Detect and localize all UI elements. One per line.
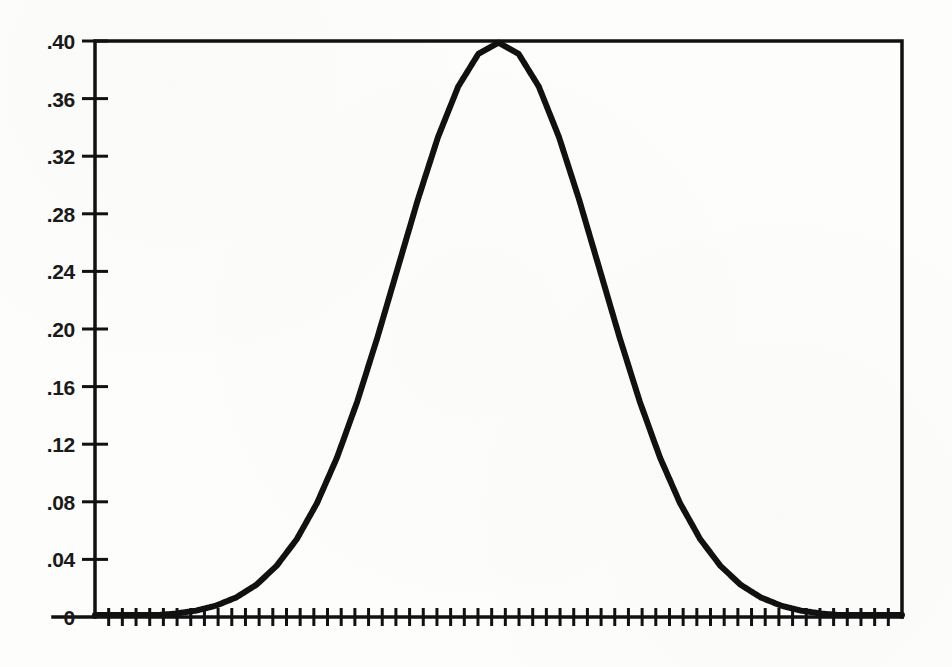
y-tick-label: .08 bbox=[47, 491, 75, 512]
y-tick-label: .16 bbox=[47, 376, 75, 397]
y-tick-label: .12 bbox=[47, 434, 75, 455]
y-tick-label: .28 bbox=[47, 203, 75, 224]
figure-page: .40.36.32.28.24.20.16.12.08.040 bbox=[0, 0, 952, 667]
y-tick-label: 0 bbox=[64, 607, 75, 628]
y-tick-label: .04 bbox=[47, 549, 75, 570]
density-curve bbox=[95, 43, 902, 615]
y-tick-label: .40 bbox=[47, 31, 75, 52]
normal-distribution-chart: .40.36.32.28.24.20.16.12.08.040 bbox=[0, 0, 952, 667]
y-tick-label: .32 bbox=[47, 146, 75, 167]
y-tick-label: .20 bbox=[47, 319, 75, 340]
frame-border bbox=[95, 41, 902, 617]
plot-canvas bbox=[0, 0, 952, 667]
plot-frame bbox=[53, 41, 902, 617]
y-tick-label: .36 bbox=[47, 88, 75, 109]
y-tick-label: .24 bbox=[47, 261, 75, 282]
